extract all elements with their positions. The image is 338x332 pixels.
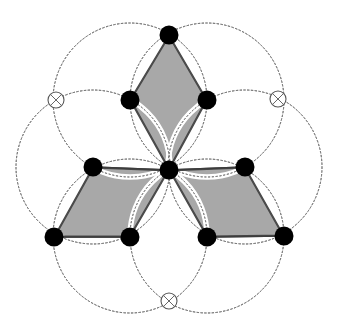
hollow-right xyxy=(270,91,286,107)
node-top xyxy=(160,26,179,45)
node-center xyxy=(160,161,179,180)
node-lower-midright xyxy=(198,228,217,247)
node-mid-right xyxy=(236,158,255,177)
diagram-stage: Three-rhombus rosette with six dotted co… xyxy=(0,0,338,332)
node-lower-midleft xyxy=(121,228,140,247)
node-upper-left xyxy=(121,91,140,110)
node-mid-left xyxy=(84,158,103,177)
geometric-figure: Three-rhombus rosette with six dotted co… xyxy=(0,0,338,332)
edge-h-i xyxy=(207,236,284,237)
node-lower-right xyxy=(275,227,294,246)
node-lower-left xyxy=(45,228,64,247)
hollow-bottom xyxy=(161,293,177,309)
hollow-left xyxy=(48,92,64,108)
node-upper-right xyxy=(198,91,217,110)
